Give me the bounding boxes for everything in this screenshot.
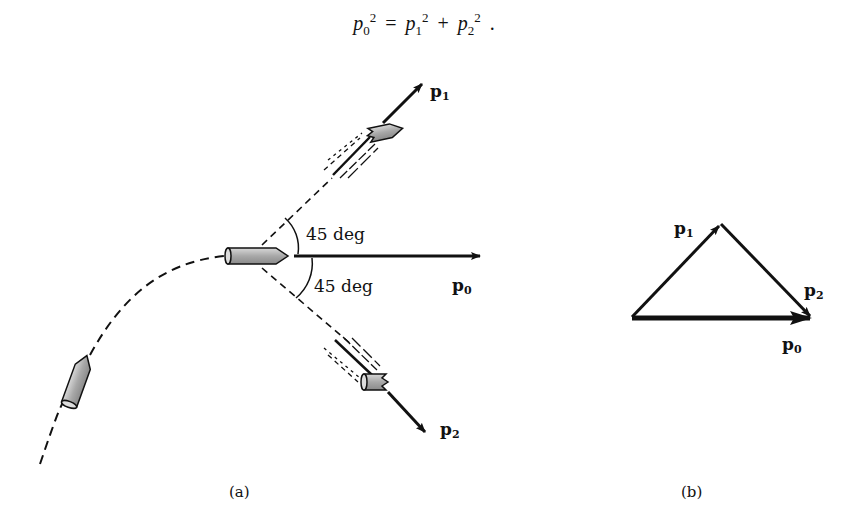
label-angle-upper: 45 deg	[306, 224, 365, 244]
diagram-canvas: p1 p0 p2 45 deg 45 deg (a) p1 p2 p0 (b)	[0, 0, 852, 528]
motion-lines-upper	[324, 133, 378, 178]
vector-p1-arrow	[383, 84, 422, 123]
fragment-icon-upper	[366, 121, 404, 142]
trajectory-dashed-path	[40, 256, 225, 464]
figure-b: p1 p2 p0 (b)	[632, 218, 824, 501]
label-p0-b: p0	[782, 334, 802, 356]
label-p1-b: p1	[674, 218, 694, 240]
vector-p2-arrow	[388, 392, 425, 432]
caption-a: (a)	[229, 483, 250, 501]
label-angle-lower: 45 deg	[314, 276, 373, 296]
figure-a: p1 p0 p2 45 deg 45 deg (a)	[40, 81, 480, 501]
angle-arc-lower	[296, 258, 312, 298]
vector-p1-triangle	[632, 226, 719, 317]
label-p2-a: p2	[440, 419, 460, 441]
fragment-icon-lower	[361, 374, 388, 390]
angle-arc-upper	[285, 218, 298, 254]
label-p1-a: p1	[430, 81, 450, 103]
shell-icon-initial	[61, 353, 95, 410]
vector-p2-triangle	[721, 224, 810, 316]
shell-icon-center	[225, 248, 288, 264]
label-p2-b: p2	[804, 280, 824, 302]
caption-b: (b)	[681, 483, 702, 501]
label-p0-a: p0	[452, 275, 472, 297]
